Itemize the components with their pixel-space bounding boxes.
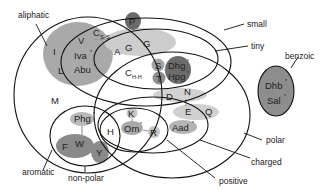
svg-text:*: * (187, 58, 189, 64)
aliphatic-leader (36, 24, 47, 46)
dn-blob (153, 88, 207, 102)
residue-k: K (128, 108, 135, 119)
residue-y: Y (96, 147, 103, 158)
svg-text:*: * (187, 70, 189, 76)
residue-g-aliphatic: G (125, 42, 132, 53)
residue-i: I (53, 46, 56, 57)
residue-p: P (129, 16, 135, 27)
svg-text:S-S: S-S (100, 34, 110, 40)
residue-w: W (75, 138, 84, 149)
svg-text:Iva: Iva (74, 50, 87, 61)
svg-text:*: * (93, 111, 95, 117)
svg-text:Dhb: Dhb (265, 80, 282, 91)
svg-text:*: * (192, 120, 194, 126)
residue-s: S (155, 60, 161, 71)
residue-q: Q (205, 106, 212, 117)
residue-d: D (166, 91, 173, 102)
amino-acid-venn-diagram: aliphatic small tiny benzoic polar charg… (0, 0, 331, 193)
residue-m: M (51, 95, 59, 106)
set-label-aromatic: aromatic (22, 167, 55, 177)
svg-text:C: C (93, 27, 100, 38)
set-label-non-polar: non-polar (68, 173, 104, 183)
residue-a: A (114, 46, 121, 57)
residue-r: R (150, 127, 157, 138)
residue-g-small: G (143, 38, 150, 49)
set-label-charged: charged (251, 157, 282, 167)
residue-h: H (107, 126, 114, 137)
svg-text:Om: Om (124, 123, 139, 134)
set-label-polar: polar (266, 135, 285, 145)
svg-text:Sal: Sal (267, 95, 281, 106)
residue-om: Om * (124, 121, 142, 134)
svg-text:*: * (285, 78, 287, 84)
set-label-aliphatic: aliphatic (18, 10, 50, 20)
svg-text:Dhg: Dhg (168, 60, 185, 71)
svg-text:Hpg: Hpg (168, 71, 185, 82)
residue-e: E (185, 106, 191, 117)
polar-leader (244, 133, 262, 140)
set-label-small: small (247, 19, 267, 29)
svg-text:*: * (284, 93, 286, 99)
svg-text:H-H: H-H (132, 74, 142, 80)
set-label-positive: positive (219, 176, 248, 186)
set-label-benzoic: benzoic (285, 51, 315, 61)
svg-text:Aad: Aad (172, 122, 189, 133)
residue-l: L (58, 65, 63, 76)
svg-text:*: * (140, 121, 142, 127)
svg-text:*: * (90, 49, 92, 55)
residue-n: N (184, 86, 191, 97)
tiny-leader (215, 46, 248, 51)
residue-v: V (78, 35, 85, 46)
residue-f: F (62, 141, 68, 152)
small-leader (224, 24, 244, 30)
residue-c-hh: C H-H (125, 67, 142, 80)
svg-text:C: C (125, 67, 132, 78)
svg-text:Phg: Phg (74, 113, 91, 124)
svg-text:Abu: Abu (74, 64, 91, 75)
residue-t: T (156, 73, 162, 84)
svg-text:*: * (94, 63, 96, 69)
set-label-tiny: tiny (251, 41, 265, 51)
